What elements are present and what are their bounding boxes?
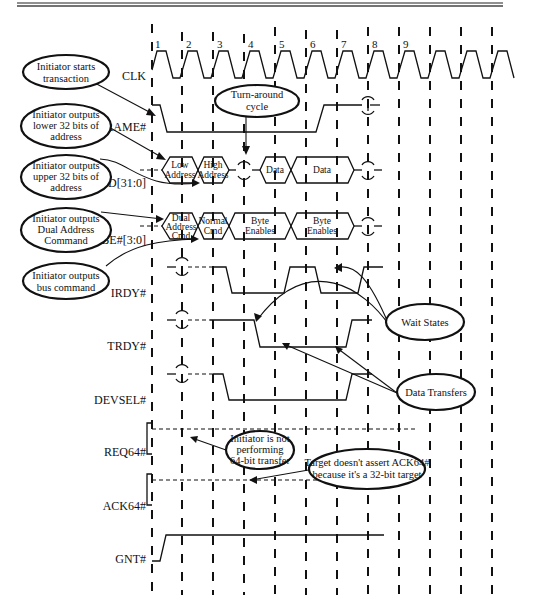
devsel-waveform: [167, 365, 372, 400]
svg-text:64-bit transfer: 64-bit transfer: [230, 455, 290, 466]
clock-number: 4: [248, 38, 254, 50]
svg-text:address: address: [50, 182, 82, 193]
cbe-normal-label: Cmd: [204, 226, 223, 236]
ad-data-label: Data: [266, 165, 285, 175]
clock-number: 8: [372, 38, 378, 50]
label-req64: REQ64#: [104, 445, 146, 459]
callout-data-transfers: Data Transfers: [397, 374, 475, 410]
label-trdy: TRDY#: [107, 339, 146, 353]
label-clk: CLK: [122, 69, 146, 83]
callout-no-ack64: Target doesn't assert ACK64# because it'…: [305, 449, 431, 489]
callout-not-64bit: Initiator is not performing 64-bit trans…: [226, 431, 294, 469]
callout-initiator-starts: Initiator starts transaction: [23, 55, 109, 89]
svg-text:Wait States: Wait States: [401, 317, 448, 328]
clk-waveform: [152, 51, 514, 78]
clock-number: 5: [279, 38, 285, 50]
label-irdy: IRDY#: [111, 286, 146, 300]
svg-text:Initiator starts: Initiator starts: [37, 61, 96, 72]
ad-low-label: Low: [171, 160, 189, 170]
gnt-waveform: [152, 535, 384, 561]
callout-upper-address: Initiator outputs upper 32 bits of addre…: [21, 155, 111, 199]
svg-text:Initiator outputs: Initiator outputs: [32, 160, 99, 171]
svg-text:cycle: cycle: [246, 101, 268, 112]
header-rule: [17, 3, 503, 6]
clock-number: 1: [155, 38, 161, 50]
svg-text:Initiator outputs: Initiator outputs: [32, 270, 99, 281]
cbe-normal-label: Normal: [198, 216, 227, 226]
svg-text:bus command: bus command: [37, 282, 96, 293]
clock-number: 2: [186, 38, 192, 50]
callout-lower-address: Initiator outputs lower 32 bits of addre…: [21, 104, 111, 148]
cbe-byte-enables-label: Byte: [251, 216, 269, 226]
clock-number: 9: [403, 38, 409, 50]
label-devsel: DEVSEL#: [94, 393, 146, 407]
trdy-waveform: [167, 311, 372, 347]
cbe-bus: Dual Address Cmd Normal Cmd Byte Enables…: [140, 213, 382, 241]
clock-number: 7: [341, 38, 347, 50]
callout-dual-address-command: Initiator outputs Dual Address Command: [21, 208, 111, 252]
clock-numbers: 1 2 3 4 5 6 7 8 9: [155, 38, 409, 50]
callout-turnaround: Turn-around cycle: [215, 85, 299, 117]
ad-bus: Low Address High Address Data Data: [140, 157, 382, 183]
svg-text:Command: Command: [44, 235, 88, 246]
svg-text:upper 32 bits of: upper 32 bits of: [33, 171, 100, 182]
clock-number: 3: [217, 38, 223, 50]
label-ack64: ACK64#: [103, 499, 146, 513]
ad-high-label: Address: [197, 170, 228, 180]
svg-text:Target doesn't assert ACK64#: Target doesn't assert ACK64#: [305, 457, 431, 468]
ad-data-label: Data: [313, 165, 332, 175]
svg-text:Initiator outputs: Initiator outputs: [32, 109, 99, 120]
svg-text:Dual Address: Dual Address: [38, 224, 95, 235]
svg-text:because it's a 32-bit target: because it's a 32-bit target: [313, 469, 422, 480]
ad-high-label: High: [204, 160, 223, 170]
svg-text:Turn-around: Turn-around: [231, 89, 284, 100]
svg-text:performing: performing: [236, 444, 284, 455]
svg-text:Initiator is not: Initiator is not: [230, 433, 290, 444]
label-gnt: GNT#: [115, 552, 146, 566]
timing-diagram: CLK FRAME# AD[31:0] C/BE#[3:0] IRDY# TRD…: [0, 0, 536, 598]
clock-number: 6: [310, 38, 316, 50]
ad-low-label: Address: [164, 170, 195, 180]
svg-text:lower 32 bits of: lower 32 bits of: [33, 120, 100, 131]
svg-text:transaction: transaction: [43, 73, 90, 84]
callout-bus-command: Initiator outputs bus command: [23, 263, 109, 299]
callout-wait-states: Wait States: [386, 304, 464, 340]
svg-text:Initiator outputs: Initiator outputs: [32, 213, 99, 224]
cbe-byte-enables-label: Byte: [313, 216, 331, 226]
svg-text:address: address: [50, 131, 82, 142]
cbe-byte-enables-label: Enables: [307, 226, 337, 236]
cbe-byte-enables-label: Enables: [245, 226, 275, 236]
svg-text:Data Transfers: Data Transfers: [405, 387, 467, 398]
